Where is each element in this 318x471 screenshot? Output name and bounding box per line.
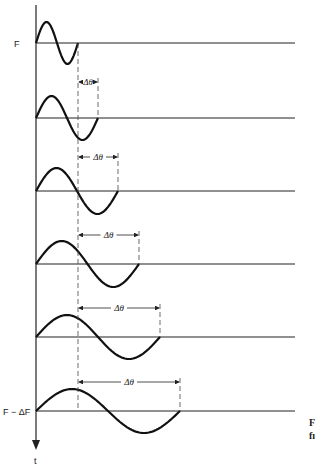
waveform-row: Δθ bbox=[36, 377, 295, 433]
waveform-row: Δθ bbox=[36, 152, 295, 214]
waveform-row: Δθ bbox=[36, 303, 295, 359]
label-f: F bbox=[14, 39, 20, 49]
time-axis-arrow-icon bbox=[32, 440, 40, 450]
delta-theta-label: Δθ bbox=[82, 77, 93, 87]
waveform-row: Δθ bbox=[36, 230, 295, 287]
caption-fragment-1: F bbox=[309, 417, 315, 428]
delta-theta-label: Δθ bbox=[103, 230, 114, 240]
label-t: t bbox=[34, 456, 37, 466]
waveform-row: Δθ bbox=[36, 77, 295, 140]
caption-fragment-2: fı bbox=[309, 430, 315, 441]
delta-theta-label: Δθ bbox=[123, 377, 134, 387]
waveform-row bbox=[36, 22, 295, 64]
label-f-minus-delta-f: F − ΔF bbox=[3, 407, 31, 417]
delta-theta-label: Δθ bbox=[113, 303, 124, 313]
frequency-shift-diagram: ΔθΔθΔθΔθΔθ F F − ΔF t F fı bbox=[0, 0, 318, 471]
delta-theta-label: Δθ bbox=[92, 152, 103, 162]
